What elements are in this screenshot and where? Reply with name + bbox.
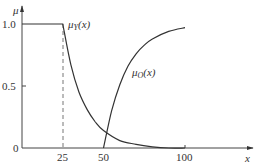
y-tick-label-0: 0 (13, 142, 19, 154)
membership-function-chart: 1.0 0.5 0 25 50 100 μ x μY(x) μO(x) (0, 0, 259, 166)
x-tick-label-25: 25 (57, 151, 69, 163)
curve-label-mu-o-arg: (x) (143, 66, 156, 79)
tick-labels: 1.0 0.5 0 25 50 100 μ x (2, 4, 250, 164)
y-axis-label: μ (12, 4, 19, 16)
curve-label-mu-y: μY(x) (67, 18, 91, 32)
curve-label-mu-y-arg: (x) (78, 18, 91, 31)
curve-mu-y (22, 24, 185, 148)
x-axis-label: x (244, 152, 250, 164)
curve-mu-o (104, 28, 186, 148)
x-tick-label-50: 50 (98, 151, 110, 163)
x-tick-label-100: 100 (176, 151, 193, 163)
y-tick-label-1.0: 1.0 (2, 18, 16, 30)
y-tick-label-0.5: 0.5 (2, 80, 16, 92)
curve-label-mu-o: μO(x) (131, 66, 156, 80)
